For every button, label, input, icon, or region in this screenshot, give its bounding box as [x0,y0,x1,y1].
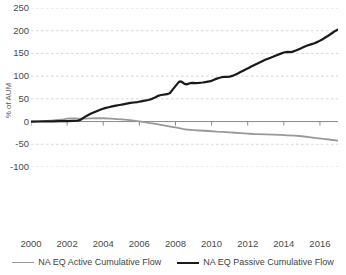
x-tick-label: 2014 [273,239,294,249]
x-tick-label: 2002 [57,239,78,249]
x-tick-label: 2012 [237,239,258,249]
x-axis-tick-labels: 200020022004200620082010201220142016 [0,239,346,255]
x-tick-label: 2008 [165,239,186,249]
x-tick-label: 2004 [93,239,114,249]
x-tick-label: 2010 [201,239,222,249]
x-tick-label: 2000 [20,239,41,249]
y-axis-tick-labels: 250200150100500-50-100 [0,0,29,240]
legend-item[interactable]: NA EQ Passive Cumulative Flow [177,258,334,267]
y-tick-label: -100 [1,162,29,172]
plot-area [31,8,338,167]
legend-label: NA EQ Passive Cumulative Flow [203,258,334,267]
series-line-passive [31,30,338,122]
legend-label: NA EQ Active Cumulative Flow [38,258,161,267]
chart-legend: NA EQ Active Cumulative FlowNA EQ Passiv… [0,258,346,267]
y-tick-label: 0 [1,117,29,127]
legend-line-swatch [12,262,34,263]
y-tick-label: 200 [1,26,29,36]
y-tick-label: 250 [1,3,29,13]
y-tick-label: 150 [1,48,29,58]
y-tick-label: -50 [1,139,29,149]
y-tick-label: 50 [1,94,29,104]
chart-figure: % of AUM 250200150100500-50-100 20002002… [0,0,346,275]
x-tick-label: 2006 [129,239,150,249]
legend-line-swatch [177,262,199,264]
x-tick-label: 2016 [309,239,330,249]
legend-item[interactable]: NA EQ Active Cumulative Flow [12,258,161,267]
y-tick-label: 100 [1,71,29,81]
plot-svg [31,8,338,167]
